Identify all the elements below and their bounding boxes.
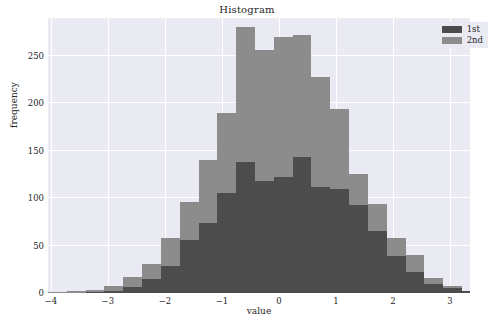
y-axis-tick-labels: 050100150200250 [0, 18, 44, 293]
x-tick-label: −4 [36, 296, 66, 306]
histogram-bar [387, 256, 406, 293]
x-axis-label: value [48, 306, 470, 316]
histogram-bar [443, 288, 462, 293]
gridline-vertical [450, 18, 451, 293]
histogram-bar [368, 231, 387, 293]
x-tick-label: 2 [378, 296, 408, 306]
legend-label-2nd: 2nd [467, 36, 483, 45]
x-tick-label: −3 [93, 296, 123, 306]
histogram-bar [406, 272, 425, 293]
histogram-bar [161, 266, 180, 294]
y-tick-label: 250 [4, 51, 44, 61]
legend-item: 2nd [442, 36, 483, 45]
histogram-bar [86, 292, 105, 293]
histogram-bar [274, 177, 293, 293]
y-tick-label: 150 [4, 146, 44, 156]
chart-title: Histogram [0, 4, 494, 15]
plot-area [48, 18, 470, 293]
x-tick-label: −1 [207, 296, 237, 306]
x-tick-label: −2 [150, 296, 180, 306]
histogram-bar [293, 157, 312, 293]
histogram-bar [142, 279, 161, 293]
histogram-bar [180, 240, 199, 293]
gridline-vertical [51, 18, 52, 293]
histogram-bar [236, 162, 255, 293]
histogram-bar [104, 291, 123, 293]
histogram-bar [255, 181, 274, 293]
y-tick-label: 100 [4, 193, 44, 203]
histogram-bar [199, 223, 218, 293]
x-tick-label: 3 [435, 296, 465, 306]
chart-legend: 1st 2nd [438, 22, 488, 48]
histogram-bar [67, 291, 86, 293]
y-tick-label: 200 [4, 98, 44, 108]
gridline-vertical [108, 18, 109, 293]
histogram-bar [123, 287, 142, 293]
histogram-bar [462, 291, 470, 293]
legend-item: 1st [442, 25, 483, 34]
histogram-bar [424, 284, 443, 293]
x-tick-label: 0 [264, 296, 294, 306]
legend-label-1st: 1st [467, 25, 480, 34]
legend-swatch-2nd [442, 37, 462, 44]
histogram-bar [330, 189, 349, 293]
histogram-figure: Histogram frequency 050100150200250 −4−3… [0, 0, 494, 321]
histogram-bar [48, 292, 67, 293]
histogram-bar [311, 187, 330, 293]
histogram-bar [217, 193, 236, 293]
y-tick-label: 50 [4, 241, 44, 251]
histogram-bar [349, 205, 368, 293]
x-tick-label: 1 [321, 296, 351, 306]
legend-swatch-1st [442, 26, 462, 33]
